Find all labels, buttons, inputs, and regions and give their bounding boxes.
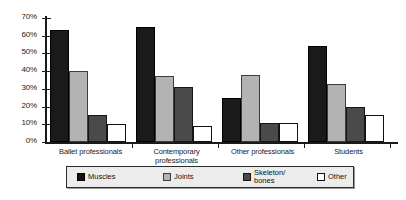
bar-group bbox=[222, 18, 300, 142]
y-axis-tick-label: 20% bbox=[22, 101, 37, 111]
legend-item[interactable]: Muscles bbox=[77, 173, 116, 182]
y-axis-tick-label: 10% bbox=[22, 118, 37, 128]
legend-swatch-icon bbox=[243, 173, 251, 181]
y-axis-tick-label: 60% bbox=[22, 30, 37, 40]
legend-swatch-icon bbox=[77, 173, 85, 181]
bar bbox=[50, 30, 69, 142]
bar bbox=[155, 76, 174, 142]
y-axis-tick: 0% bbox=[42, 142, 51, 143]
bar bbox=[136, 27, 155, 142]
y-axis-tick-label: 30% bbox=[22, 83, 37, 93]
legend-swatch-icon bbox=[317, 173, 325, 181]
y-axis-tick-label: 50% bbox=[22, 47, 37, 57]
bar-chart: 0%10%20%30%40%50%60%70% Ballet professio… bbox=[0, 0, 406, 200]
legend-item-label: Muscles bbox=[88, 173, 116, 182]
bar bbox=[174, 87, 193, 142]
bar bbox=[279, 123, 298, 142]
bar bbox=[327, 84, 346, 142]
legend-item[interactable]: Joints bbox=[163, 173, 194, 182]
legend-item[interactable]: Other bbox=[317, 173, 347, 182]
bar bbox=[107, 124, 126, 142]
bar bbox=[346, 107, 365, 142]
bar bbox=[241, 75, 260, 142]
legend-item-label: Joints bbox=[174, 173, 194, 182]
legend-swatch-icon bbox=[163, 173, 171, 181]
bar bbox=[260, 123, 279, 142]
y-axis-tick-label: 70% bbox=[22, 12, 37, 22]
plot-area: 0%10%20%30%40%50%60%70% bbox=[46, 18, 398, 142]
bar bbox=[365, 115, 384, 142]
chart-legend: MusclesJointsSkeleton/ bonesOther bbox=[66, 166, 354, 188]
legend-item[interactable]: Skeleton/ bones bbox=[243, 169, 285, 186]
legend-item-label: Other bbox=[328, 173, 347, 182]
y-axis-tick-label: 0% bbox=[26, 136, 37, 146]
bar-group bbox=[308, 18, 386, 142]
bar bbox=[69, 71, 88, 142]
category-label: Other professionals bbox=[213, 147, 313, 156]
bar bbox=[88, 115, 107, 142]
x-axis-line bbox=[45, 142, 398, 144]
category-label: Ballet professionals bbox=[41, 147, 141, 156]
bar bbox=[308, 46, 327, 142]
y-axis-tick-label: 40% bbox=[22, 65, 37, 75]
legend-item-label: Skeleton/ bones bbox=[254, 169, 285, 186]
category-label: Students bbox=[299, 147, 399, 156]
bar bbox=[193, 126, 212, 142]
bar-group bbox=[50, 18, 128, 142]
bar bbox=[222, 98, 241, 142]
category-label: Contemporary professionals bbox=[127, 147, 227, 165]
bar-group bbox=[136, 18, 214, 142]
